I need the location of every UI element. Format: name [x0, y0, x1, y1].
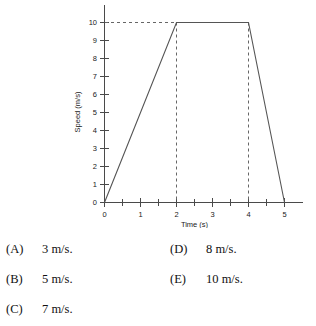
option-e-letter: (E) — [170, 272, 198, 287]
chart-axes — [105, 5, 304, 203]
x-tick-label: 3 — [210, 210, 214, 219]
speed-time-chart: 0 1 2 3 4 5 6 7 8 9 10 — [0, 0, 316, 228]
y-tick-label: 2 — [93, 162, 97, 171]
option-c-text: 7 m/s. — [42, 302, 73, 317]
option-b-text: 5 m/s. — [42, 272, 73, 287]
option-a-text: 3 m/s. — [42, 242, 73, 257]
option-a[interactable]: (A) 3 m/s. — [6, 234, 166, 264]
y-tick-label: 10 — [89, 18, 97, 27]
y-tick-label: 4 — [93, 126, 97, 135]
option-b-letter: (B) — [6, 272, 34, 287]
chart-guide-lines — [105, 23, 249, 203]
y-tick-label: 9 — [93, 36, 97, 45]
speed-time-trace — [105, 23, 285, 203]
x-tick-label: 0 — [102, 210, 106, 219]
x-tick-label: 1 — [138, 210, 142, 219]
y-axis-title: Speed (m/s) — [73, 91, 82, 132]
y-tick-label: 0 — [93, 198, 97, 207]
option-c-letter: (C) — [6, 302, 34, 317]
option-b[interactable]: (B) 5 m/s. — [6, 264, 166, 294]
x-tick-label: 5 — [282, 210, 286, 219]
option-c[interactable]: (C) 7 m/s. — [6, 294, 166, 324]
y-tick-label: 6 — [93, 90, 97, 99]
x-tick-label: 4 — [246, 210, 250, 219]
option-d-text: 8 m/s. — [206, 242, 237, 257]
option-a-letter: (A) — [6, 242, 34, 257]
x-axis-title: Time (s) — [181, 220, 209, 228]
y-tick-label: 5 — [93, 108, 97, 117]
x-tick-label: 2 — [174, 210, 178, 219]
option-d[interactable]: (D) 8 m/s. — [170, 234, 316, 264]
x-axis-tick-labels: 0 1 2 3 4 5 — [102, 210, 286, 219]
option-e-text: 10 m/s. — [206, 272, 243, 287]
y-tick-label: 1 — [93, 180, 97, 189]
option-d-letter: (D) — [170, 242, 198, 257]
chart-canvas: 0 1 2 3 4 5 6 7 8 9 10 — [0, 0, 316, 228]
y-tick-label: 3 — [93, 144, 97, 153]
option-e[interactable]: (E) 10 m/s. — [170, 264, 316, 294]
y-tick-label: 7 — [93, 72, 97, 81]
y-tick-label: 8 — [93, 54, 97, 63]
y-axis-tick-labels: 0 1 2 3 4 5 6 7 8 9 10 — [89, 18, 97, 207]
answer-options: (A) 3 m/s. (B) 5 m/s. (C) 7 m/s. (D) 8 m… — [0, 228, 316, 326]
